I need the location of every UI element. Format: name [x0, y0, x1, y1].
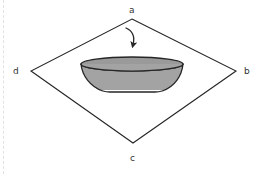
vertex-label-b: b — [244, 67, 250, 76]
diagram-svg — [0, 0, 264, 174]
vertex-label-d: d — [13, 67, 19, 76]
vertex-label-c: c — [130, 154, 135, 163]
vertex-label-a: a — [129, 6, 135, 15]
figure-canvas: a b c d — [0, 0, 264, 174]
